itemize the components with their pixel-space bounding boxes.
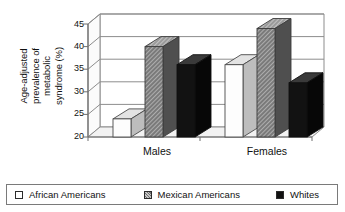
bar-males-african-americans: [113, 109, 147, 137]
legend-swatch-hatched-icon: [144, 191, 152, 199]
legend-label-african-americans: African Americans: [29, 190, 106, 200]
legend-label-whites: Whites: [290, 190, 319, 200]
legend-swatch-white-icon: [15, 191, 23, 199]
bar-chart-figure: Age-adjusted prevalence of metabolic syn…: [0, 0, 345, 212]
legend-item-african-americans: African Americans: [15, 190, 106, 200]
bar-females-african-americans: [225, 55, 259, 137]
bar-females-whites: [289, 73, 323, 137]
x-category-label-males: Males: [118, 145, 196, 157]
legend-item-whites: Whites: [276, 190, 319, 200]
x-category-label-females: Females: [224, 145, 310, 157]
bar-series-group: [0, 0, 345, 212]
bar-males-mexican-americans: [145, 37, 179, 137]
chart-legend: African Americans Mexican Americans Whit…: [6, 184, 338, 205]
bar-males-whites: [177, 55, 211, 137]
legend-label-mexican-americans: Mexican Americans: [158, 190, 240, 200]
legend-item-mexican-americans: Mexican Americans: [144, 190, 240, 200]
legend-swatch-black-icon: [276, 191, 284, 199]
bar-females-mexican-americans: [257, 19, 291, 138]
